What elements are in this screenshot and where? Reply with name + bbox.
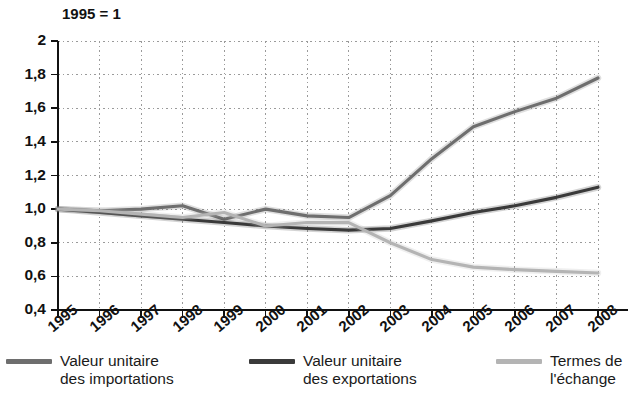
chart-legend: Valeur unitaire des importationsValeur u… [0, 352, 640, 395]
chart-figure: · 1995 = 1 0,40,60,81,01,21,41,61,82 199… [0, 0, 640, 395]
legend-swatch-icon [249, 359, 295, 364]
y-tick-label-text: 2 [0, 31, 46, 49]
legend-item-2[interactable]: Valeur unitaire des exportations [249, 352, 417, 388]
y-tick-label-text: 1,0 [0, 199, 46, 217]
legend-swatch-icon [496, 359, 542, 364]
plot-area: 0,40,60,81,01,21,41,61,82 19951996199719… [0, 0, 640, 340]
axes [51, 41, 628, 318]
legend-label: Termes de l'échange [550, 352, 622, 388]
series-line-1 [58, 78, 598, 219]
y-tick-label-text: 1,2 [0, 166, 46, 184]
legend-swatch-icon [6, 359, 52, 364]
legend-item-1[interactable]: Valeur unitaire des importations [6, 352, 174, 388]
y-tick-label-text: 0,4 [0, 300, 46, 318]
y-tick-label-text: 1,4 [0, 132, 46, 150]
legend-label: Valeur unitaire des exportations [303, 352, 417, 388]
y-tick-label-text: 1,6 [0, 98, 46, 116]
y-tick-label-text: 0,8 [0, 233, 46, 251]
legend-label: Valeur unitaire des importations [60, 352, 174, 388]
legend-item-3[interactable]: Termes de l'échange [496, 352, 622, 388]
chart-canvas [0, 0, 640, 340]
y-tick-label-text: 1,8 [0, 65, 46, 83]
y-tick-label-text: 0,6 [0, 266, 46, 284]
